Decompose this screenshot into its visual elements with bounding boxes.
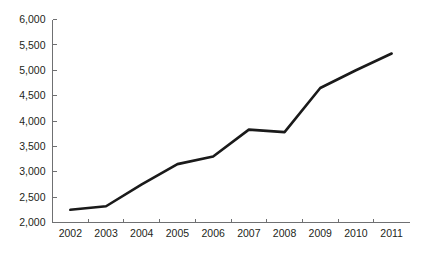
chart-plot-area: 2,0002,5003,0003,5004,0004,5005,0005,500… [0,0,422,262]
x-tick-label: 2011 [380,227,403,239]
y-tick-label: 2,000 [19,216,45,228]
y-tick-label: 4,000 [19,115,45,127]
x-tick-label: 2003 [94,227,118,239]
x-tick-label: 2010 [344,227,368,239]
y-tick-label: 2,500 [19,191,45,203]
x-tick-label: 2006 [201,227,225,239]
y-tick-label: 4,500 [19,89,45,101]
y-tick-label: 3,500 [19,140,45,152]
y-tick-label: 3,000 [19,165,45,177]
y-tick-label: 5,000 [19,64,45,76]
x-tick-label: 2007 [237,227,261,239]
x-tick-label: 2004 [130,227,154,239]
x-tick-label: 2009 [309,227,333,239]
y-tick-label: 6,000 [19,13,45,25]
line-chart-figure: 2,0002,5003,0003,5004,0004,5005,0005,500… [0,0,422,262]
x-tick-label: 2002 [59,227,83,239]
y-tick-label: 5,500 [19,39,45,51]
x-tick-label: 2005 [166,227,190,239]
data-series-line [70,54,391,210]
chart-axes [53,20,410,223]
x-tick-label: 2008 [273,227,297,239]
